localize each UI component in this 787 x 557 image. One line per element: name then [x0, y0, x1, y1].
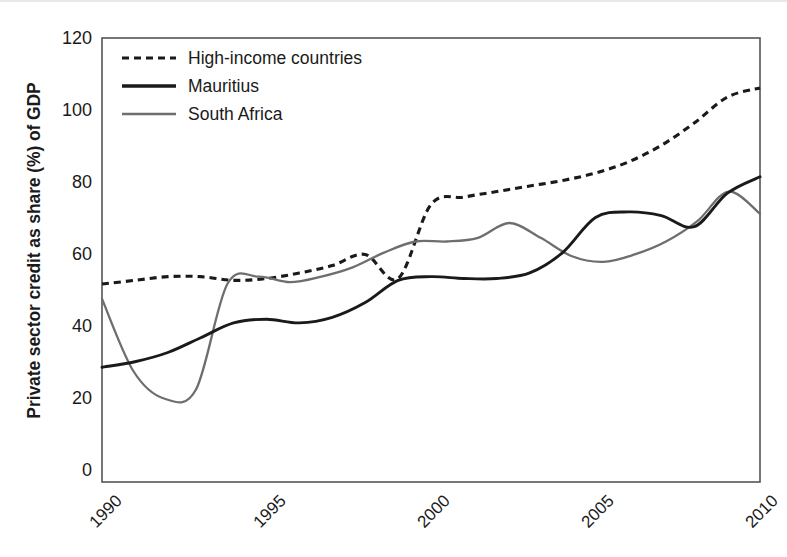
series-line-south-africa: [102, 191, 760, 402]
series-line-mauritius: [102, 177, 760, 368]
plot-frame: [102, 38, 760, 482]
series-line-high-income-countries: [102, 88, 760, 284]
chart-figure: Private sector credit as share (%) of GD…: [0, 0, 787, 557]
plot-area: [0, 0, 787, 557]
